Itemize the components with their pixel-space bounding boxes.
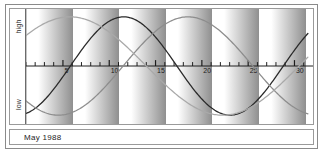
axis-label-high: high	[15, 10, 22, 44]
footer-bar: May 1988	[9, 129, 314, 145]
month-caption: May 1988	[24, 133, 62, 142]
plot-area: high low 51015202530	[9, 8, 314, 125]
x-tick-label: 15	[157, 67, 165, 74]
axis-label-gutter: high low	[10, 9, 26, 124]
axis-label-low: low	[15, 88, 22, 122]
plot-svg: 51015202530	[10, 9, 313, 124]
biorhythm-chart-panel: high low 51015202530 May 1988	[0, 0, 323, 154]
x-tick-label: 20	[203, 67, 211, 74]
